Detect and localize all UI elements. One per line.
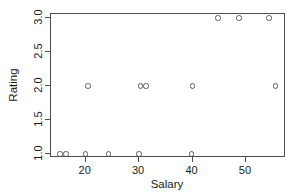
data-point: [190, 83, 195, 88]
x-axis-tick-label: 20: [79, 165, 91, 176]
y-axis-tick-label: 1.5: [33, 111, 44, 126]
data-point: [138, 83, 143, 88]
data-point: [63, 151, 68, 156]
y-axis-label-text: Rating: [8, 68, 20, 101]
y-axis-tick: [45, 85, 50, 86]
y-axis-tick-label: 3.0: [33, 9, 44, 24]
data-point: [136, 151, 141, 156]
x-axis-tick: [85, 157, 86, 162]
data-point: [266, 15, 271, 20]
x-axis-tick-label: 40: [185, 165, 197, 176]
x-axis-tick: [192, 157, 193, 162]
data-points-layer: [51, 14, 284, 156]
y-axis-tick-label: 1.0: [33, 145, 44, 160]
x-axis-tick: [245, 157, 246, 162]
y-axis-tick-label: 2.5: [33, 43, 44, 58]
plot-panel: [50, 13, 285, 157]
data-point: [143, 83, 148, 88]
data-point: [189, 151, 194, 156]
y-axis-tick: [45, 17, 50, 18]
data-point: [57, 151, 62, 156]
x-axis-label: Salary: [151, 179, 184, 191]
y-axis-tick: [45, 51, 50, 52]
y-axis-tick: [45, 153, 50, 154]
data-point: [236, 15, 241, 20]
data-point: [215, 15, 220, 20]
data-point: [85, 83, 90, 88]
scatter-plot-figure: Salary Rating 203040501.01.52.02.53.0: [0, 0, 300, 196]
data-point: [106, 151, 111, 156]
y-axis-tick-label: 2.0: [33, 77, 44, 92]
x-axis-tick-label: 30: [132, 165, 144, 176]
data-point: [273, 83, 278, 88]
x-axis-tick-label: 50: [239, 165, 251, 176]
x-axis-tick: [138, 157, 139, 162]
data-point: [83, 151, 88, 156]
y-axis-tick: [45, 119, 50, 120]
